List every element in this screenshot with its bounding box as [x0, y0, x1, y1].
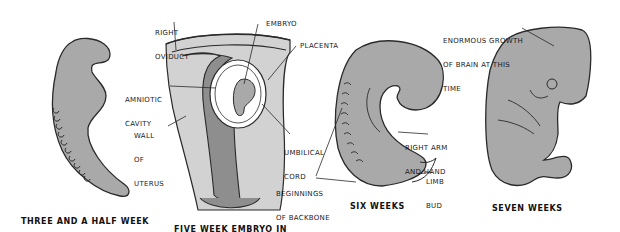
label-right-oviduct: RIGHT OVIDUCT [155, 13, 189, 69]
label-backbone: BEGINNINGS OF BACKBONE [276, 174, 330, 230]
label-placenta: PLACENTA [300, 42, 338, 50]
caption-five-week: FIVE WEEK EMBRYO IN POSITION IN UTERUS [174, 207, 287, 232]
three-half-week-embryo [53, 38, 129, 196]
label-brain-growth: ENORMOUS GROWTH OF BRAIN AT THIS TIME [443, 21, 523, 101]
caption-seven-weeks: SEVEN WEEKS [492, 204, 563, 213]
caption-three-half-week: THREE AND A HALF WEEK OLD EMBRYO [21, 199, 149, 232]
label-wall-of-uterus: WALL OF UTERUS [134, 116, 164, 196]
label-limb-bud: LIMB BUD [426, 162, 444, 218]
label-embryo: EMBRYO [266, 20, 297, 28]
caption-six-weeks: SIX WEEKS [350, 202, 405, 211]
